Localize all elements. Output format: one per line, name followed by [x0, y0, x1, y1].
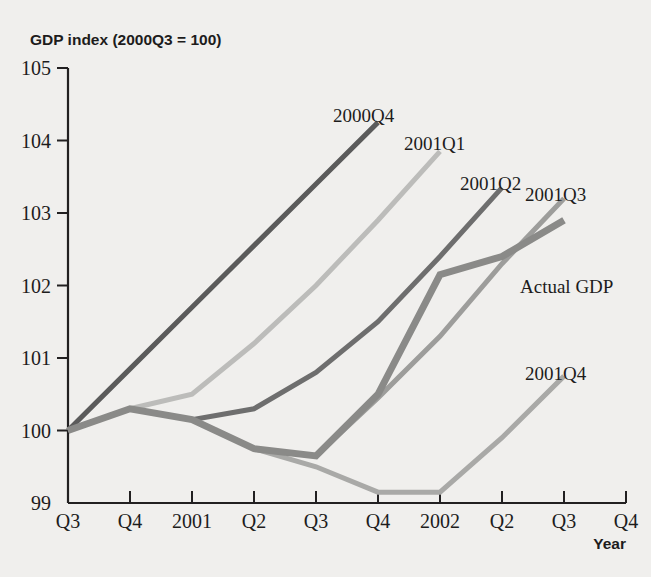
- gdp-index-chart: GDP index (2000Q3 = 100) 105104103102101…: [0, 0, 651, 577]
- x-tick-label: Q4: [366, 510, 390, 532]
- y-tick-label: 105: [21, 57, 51, 79]
- y-axis-title: GDP index (2000Q3 = 100): [30, 31, 221, 48]
- x-axis-title: Year: [593, 535, 626, 552]
- y-tick-label: 104: [21, 130, 51, 152]
- series-label-2001q4: 2001Q4: [525, 363, 587, 384]
- x-tick-label: Q4: [614, 510, 638, 532]
- series-label-2001q1: 2001Q1: [404, 133, 465, 154]
- x-tick-label: Q2: [490, 510, 514, 532]
- y-tick-label: 100: [21, 420, 51, 442]
- x-tick-label: 2001: [172, 510, 212, 532]
- series-label-2001q2: 2001Q2: [460, 173, 521, 194]
- series-label-actual-gdp: Actual GDP: [520, 276, 613, 297]
- y-tick-label: 103: [21, 202, 51, 224]
- x-tick-label: Q3: [56, 510, 80, 532]
- y-tick-label: 99: [31, 492, 51, 514]
- y-tick-label: 102: [21, 275, 51, 297]
- x-tick-label: Q3: [304, 510, 328, 532]
- x-tick-label: Q3: [552, 510, 576, 532]
- series-label-2001q3: 2001Q3: [525, 184, 586, 205]
- chart-canvas: GDP index (2000Q3 = 100) 105104103102101…: [0, 0, 651, 577]
- x-tick-label: 2002: [420, 510, 460, 532]
- series-label-2000q4: 2000Q4: [333, 105, 395, 126]
- x-tick-label: Q2: [242, 510, 266, 532]
- x-tick-label: Q4: [118, 510, 142, 532]
- y-tick-label: 101: [21, 347, 51, 369]
